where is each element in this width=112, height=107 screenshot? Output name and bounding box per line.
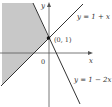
point-label: (0, 1) — [54, 36, 72, 44]
graph: y x 0 (0, 1) y = 1 + x y = 1 − 2x — [0, 0, 112, 107]
y-axis-label: y — [40, 2, 46, 10]
line-label-1-minus-2x: y = 1 − 2x — [73, 76, 111, 84]
shaded-region — [2, 3, 49, 85]
line-label-1-plus-x: y = 1 + x — [76, 13, 110, 21]
x-axis-arrow-icon — [88, 51, 93, 55]
line-y-equals-1-minus-2x — [33, 3, 80, 104]
origin-label: 0 — [41, 58, 45, 66]
x-axis-label: x — [89, 57, 93, 65]
intersection-point — [47, 36, 51, 40]
y-axis-arrow-icon — [47, 2, 51, 7]
